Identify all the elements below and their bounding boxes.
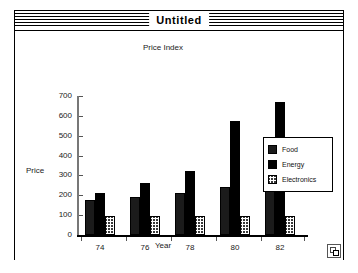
bar-energy-76: [140, 183, 150, 235]
legend-label-electronics: Electronics: [282, 176, 316, 183]
y-tick-label: 0: [46, 231, 72, 239]
y-tick-label: 200: [46, 191, 72, 199]
bar-food-78: [175, 193, 185, 235]
y-tick-label: 700: [46, 92, 72, 100]
grow-box-front-square: [333, 250, 339, 256]
bar-electronics-78: [195, 216, 205, 235]
y-tick-mark: [79, 96, 83, 97]
chart-window: Untitled Price Index 0100200300400500600…: [14, 10, 344, 260]
y-tick-mark: [79, 116, 83, 117]
y-tick-mark: [79, 175, 83, 176]
window-title: Untitled: [149, 12, 209, 29]
bar-electronics-76: [150, 216, 160, 235]
y-axis-line: [77, 96, 79, 235]
chart-legend: FoodEnergyElectronics: [263, 137, 333, 192]
bar-food-82: [265, 186, 275, 235]
bar-electronics-80: [240, 216, 250, 235]
y-tick-mark: [79, 156, 83, 157]
y-axis-label: Price: [26, 166, 44, 175]
bar-electronics-82: [285, 216, 295, 235]
legend-item-electronics: Electronics: [268, 173, 328, 186]
y-tick-mark: [79, 195, 83, 196]
window-title-bar[interactable]: Untitled: [15, 11, 343, 31]
legend-label-food: Food: [282, 146, 298, 153]
legend-swatch-energy: [268, 160, 277, 169]
bar-energy-78: [185, 171, 195, 235]
legend-label-energy: Energy: [282, 161, 304, 168]
legend-item-food: Food: [268, 143, 328, 156]
bar-electronics-74: [105, 216, 115, 235]
y-tick-mark: [79, 136, 83, 137]
window-content: Price Index 0100200300400500600700747678…: [15, 31, 343, 260]
bar-energy-80: [230, 121, 240, 235]
x-axis-line: [77, 235, 308, 237]
legend-swatch-food: [268, 145, 277, 154]
resize-grow-box-icon[interactable]: [327, 244, 341, 258]
bar-energy-74: [95, 193, 105, 235]
bar-food-80: [220, 187, 230, 235]
x-axis-label-text: Year: [155, 241, 171, 250]
bar-food-74: [85, 200, 95, 235]
y-tick-label: 600: [46, 112, 72, 120]
y-tick-label: 300: [46, 171, 72, 179]
legend-item-energy: Energy: [268, 158, 328, 171]
legend-swatch-electronics: [268, 175, 277, 184]
y-tick-label: 100: [46, 211, 72, 219]
bar-food-76: [130, 197, 140, 235]
y-tick-label: 500: [46, 132, 72, 140]
x-axis-label: Year: [15, 241, 343, 250]
y-tick-mark: [79, 215, 83, 216]
screen: Untitled Price Index 0100200300400500600…: [0, 0, 358, 273]
y-tick-label: 400: [46, 152, 72, 160]
